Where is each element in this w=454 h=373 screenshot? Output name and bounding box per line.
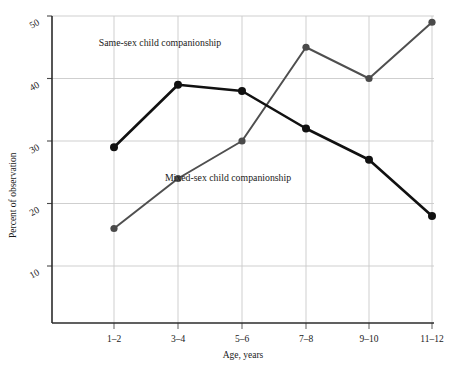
y-tick-label: 30 <box>28 142 41 156</box>
data-point <box>365 156 373 164</box>
line-chart-svg: 1020304050 1–23–45–67–89–1011–12 Same-se… <box>0 0 454 373</box>
data-point <box>365 75 372 82</box>
y-tick-labels-group: 1020304050 <box>28 17 41 281</box>
chart-figure: 1020304050 1–23–45–67–89–1011–12 Same-se… <box>0 0 454 373</box>
data-point <box>238 137 245 144</box>
x-tick-label: 7–8 <box>299 334 314 344</box>
data-point <box>428 212 436 220</box>
x-tick-label: 9–10 <box>360 334 379 344</box>
x-axis-title: Age, years <box>223 350 264 360</box>
x-ticks-group <box>114 323 432 329</box>
series-line-same-sex <box>114 22 432 228</box>
x-tick-label: 5–6 <box>235 334 250 344</box>
x-tick-label: 3–4 <box>171 334 186 344</box>
gridlines-group <box>52 16 434 323</box>
y-axis-title: Percent of observation <box>8 152 18 238</box>
x-tick-labels-group: 1–23–45–67–89–1011–12 <box>107 334 444 344</box>
data-point <box>174 81 182 89</box>
series-line-mixed-sex <box>114 85 432 216</box>
series-annotation-label: Same-sex child companionship <box>99 37 222 48</box>
data-point <box>110 143 118 151</box>
data-point <box>110 225 117 232</box>
data-point <box>428 19 435 26</box>
data-point <box>302 125 310 133</box>
y-tick-label: 20 <box>28 204 41 218</box>
series-layer <box>110 19 436 232</box>
y-tick-label: 10 <box>28 267 41 281</box>
data-point <box>302 44 309 51</box>
series-annotation-label: Mixed-sex child companionship <box>165 172 291 183</box>
data-point <box>238 87 246 95</box>
x-tick-label: 1–2 <box>107 334 122 344</box>
y-tick-label: 40 <box>28 79 41 93</box>
x-tick-label: 11–12 <box>420 334 444 344</box>
y-tick-label: 50 <box>28 17 41 31</box>
